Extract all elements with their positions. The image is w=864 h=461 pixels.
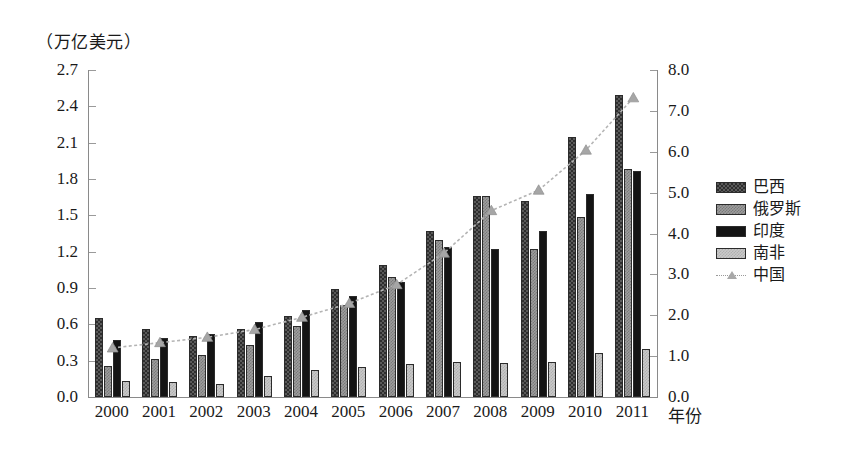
y-axis-left-tick-label: 0.3: [34, 351, 78, 371]
bar-brazil: [426, 231, 434, 397]
y-axis-right-tick-label: 5.0: [668, 183, 712, 203]
legend-swatch-india-icon: [716, 226, 746, 237]
bar-russia: [246, 345, 254, 397]
bar-southafrica: [358, 367, 366, 397]
y-axis-left-tick-label: 2.7: [34, 60, 78, 80]
x-axis-tick-label: 2001: [135, 402, 182, 422]
legend-item-brazil[interactable]: 巴西: [716, 176, 801, 198]
bar-india: [491, 249, 499, 397]
legend-swatch-brazil-icon: [716, 182, 746, 193]
y-axis-right-tick-label: 3.0: [668, 264, 712, 284]
legend-label: 南非: [753, 242, 785, 264]
bar-brazil: [331, 289, 339, 397]
bar-brazil: [568, 137, 576, 397]
bar-group: [136, 70, 183, 397]
bar-southafrica: [406, 364, 414, 397]
x-axis-tick-label: 2008: [467, 402, 514, 422]
bar-india: [633, 171, 641, 397]
bar-russia: [530, 249, 538, 397]
bar-russia: [104, 366, 112, 397]
bar-russia: [151, 359, 159, 397]
bar-india: [255, 322, 263, 397]
y-axis-left-tick-label: 0.0: [34, 387, 78, 407]
bar-group: [89, 70, 136, 397]
bar-southafrica: [216, 384, 224, 397]
bar-group: [373, 70, 420, 397]
bar-brazil: [284, 316, 292, 397]
legend-item-india[interactable]: 印度: [716, 220, 801, 242]
bar-russia: [577, 217, 585, 397]
bar-russia: [482, 196, 490, 397]
x-axis-tick-label: 2009: [514, 402, 561, 422]
y-axis-right-tick-label: 7.0: [668, 101, 712, 121]
y-axis-left-tick-label: 1.8: [34, 169, 78, 189]
bar-india: [207, 334, 215, 397]
bar-brazil: [95, 318, 103, 397]
bar-group: [468, 70, 515, 397]
plot-area: [88, 70, 658, 398]
x-axis-tick-label: 2005: [325, 402, 372, 422]
y-axis-left-tick-label: 0.6: [34, 314, 78, 334]
chart-legend: 巴西俄罗斯印度南非中国: [716, 176, 801, 286]
bar-india: [160, 338, 168, 397]
y-axis-right-tick-label: 6.0: [668, 142, 712, 162]
legend-item-china[interactable]: 中国: [716, 264, 801, 286]
y-axis-left-tick-label: 1.5: [34, 205, 78, 225]
y-axis-left-tick-label: 2.4: [34, 96, 78, 116]
y-axis-left-tick-label: 2.1: [34, 133, 78, 153]
legend-item-southafrica[interactable]: 南非: [716, 242, 801, 264]
bar-group: [610, 70, 657, 397]
legend-item-russia[interactable]: 俄罗斯: [716, 198, 801, 220]
bar-brazil: [473, 196, 481, 397]
bar-russia: [388, 277, 396, 397]
legend-swatch-russia-icon: [716, 204, 746, 215]
plot-inner: [89, 70, 657, 397]
bar-brazil: [142, 329, 150, 397]
brics-gdp-chart: （万亿美元） 0.00.30.60.91.21.51.82.12.42.7 0.…: [0, 0, 864, 461]
legend-label: 印度: [753, 220, 785, 242]
bar-southafrica: [548, 362, 556, 397]
bar-group: [278, 70, 325, 397]
bar-russia: [293, 326, 301, 397]
y-axis-unit-caption: （万亿美元）: [36, 28, 141, 53]
x-axis-tick-label: 2011: [609, 402, 656, 422]
bar-southafrica: [264, 376, 272, 397]
bar-group: [184, 70, 231, 397]
bar-brazil: [521, 201, 529, 397]
x-axis-tick-label: 2002: [183, 402, 230, 422]
legend-label: 俄罗斯: [753, 198, 801, 220]
bar-southafrica: [311, 370, 319, 397]
x-axis-tick-label: 2006: [372, 402, 419, 422]
x-axis-tick-label: 2007: [419, 402, 466, 422]
bar-russia: [340, 305, 348, 397]
bar-group: [562, 70, 609, 397]
bar-group: [515, 70, 562, 397]
bar-india: [444, 247, 452, 397]
bar-group: [420, 70, 467, 397]
bar-india: [397, 282, 405, 397]
y-axis-right-tick-label: 4.0: [668, 224, 712, 244]
x-axis-tick-label: 2004: [277, 402, 324, 422]
bar-brazil: [379, 265, 387, 397]
bar-group: [231, 70, 278, 397]
legend-swatch-china-icon: [716, 270, 746, 281]
y-axis-right-tick-label: 8.0: [668, 60, 712, 80]
bar-southafrica: [122, 381, 130, 397]
x-axis-tick-label: 2003: [230, 402, 277, 422]
x-axis-tick-label: 2000: [88, 402, 135, 422]
bar-brazil: [189, 336, 197, 397]
y-axis-right-tick-label: 2.0: [668, 305, 712, 325]
bar-india: [113, 340, 121, 397]
x-axis-tick-label: 2010: [561, 402, 608, 422]
bar-southafrica: [642, 349, 650, 397]
bar-southafrica: [500, 363, 508, 397]
bar-russia: [435, 240, 443, 397]
bar-india: [349, 296, 357, 397]
legend-swatch-southafrica-icon: [716, 248, 746, 259]
bar-brazil: [615, 95, 623, 397]
bar-southafrica: [595, 353, 603, 397]
bar-india: [586, 194, 594, 397]
bar-russia: [624, 169, 632, 397]
y-axis-right-tick-label: 1.0: [668, 346, 712, 366]
y-axis-left-tick-label: 1.2: [34, 242, 78, 262]
